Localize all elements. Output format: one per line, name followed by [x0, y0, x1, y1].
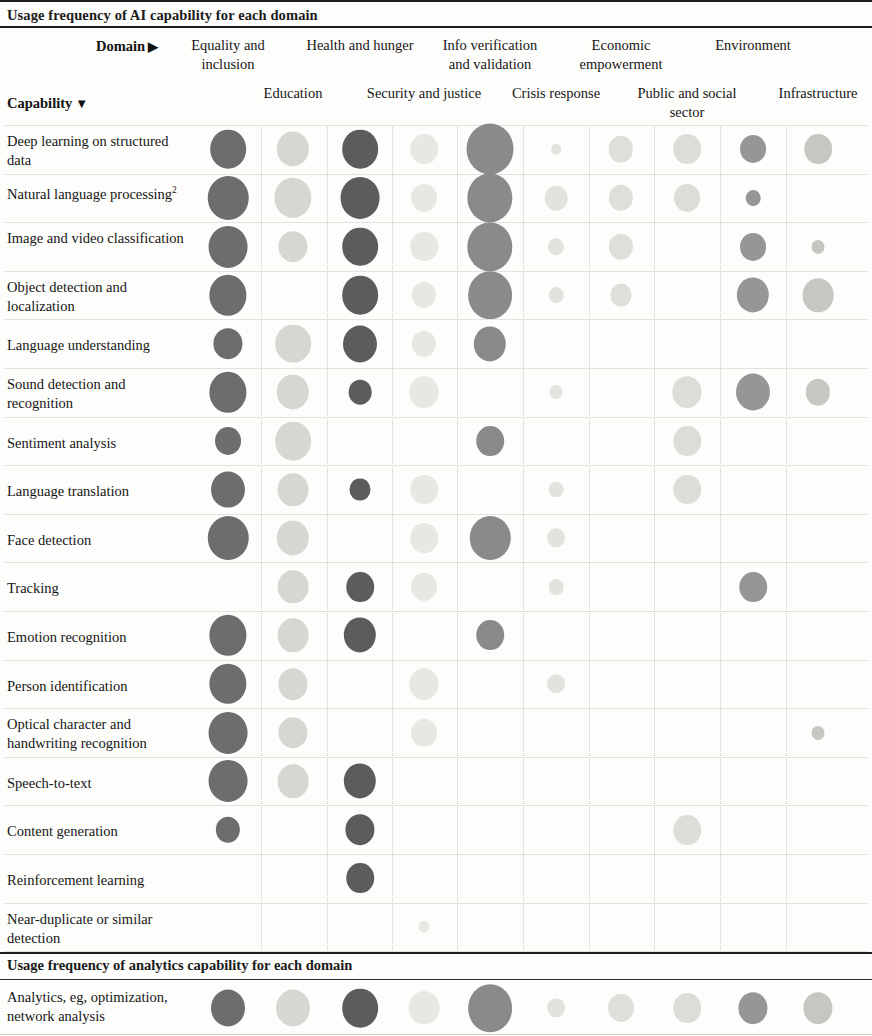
bubble-r14-c3	[344, 764, 376, 799]
bubble-r6-c2	[277, 375, 309, 410]
column-header-6: Crisis response	[497, 84, 615, 103]
row-separator	[4, 271, 868, 272]
bubble-r8-c8	[673, 475, 701, 505]
bubble-r9-c2	[277, 521, 309, 556]
footnote-marker: 2	[172, 185, 177, 195]
column-gridline-4	[457, 125, 458, 950]
bubble-r6-c8	[672, 376, 701, 408]
capability-arrow-icon: ▼	[75, 96, 88, 112]
bubble-r4-c6	[549, 287, 564, 303]
row-separator	[4, 125, 868, 126]
column-header-9: Environment	[694, 36, 812, 55]
bubble-r1-c8	[673, 134, 701, 164]
bubble-r11-c1	[209, 615, 246, 655]
bubble-r1-c2	[277, 132, 309, 167]
bubble-r2-c4	[411, 184, 437, 212]
row-separator	[4, 903, 868, 904]
bubble-r2-c1	[208, 176, 249, 220]
bubble-r8-c6	[549, 482, 564, 498]
row-label-6: Sound detection and recognition	[7, 375, 192, 413]
analytics-bubble-c10	[803, 992, 832, 1024]
bubble-r5-c4	[412, 330, 436, 356]
row-label-13: Optical character and handwriting recogn…	[7, 715, 192, 753]
analytics-row: Analytics, eg, optimization, network ana…	[0, 982, 872, 1033]
bubble-r6-c1	[209, 372, 246, 412]
bubble-r14-c2	[278, 764, 309, 797]
row-separator	[4, 514, 868, 515]
bubble-r9-c1	[208, 516, 249, 560]
bubble-r11-c3	[344, 618, 376, 653]
bubble-r1-c9	[740, 135, 766, 163]
column-header-3: Health and hunger	[301, 36, 419, 55]
analytics-bubble-c7	[608, 994, 634, 1022]
bubble-r17-c4	[418, 921, 429, 933]
row-separator	[4, 417, 868, 418]
bubble-r13-c4	[411, 718, 437, 746]
bubble-r5-c1	[213, 328, 242, 360]
bubble-r10-c2	[278, 570, 309, 603]
bubble-r15-c3	[345, 814, 374, 846]
row-separator	[4, 854, 868, 855]
bubble-r14-c1	[209, 760, 248, 802]
bubble-r6-c3	[349, 380, 372, 405]
chart-title-bar: Usage frequency of AI capability for eac…	[0, 0, 872, 28]
bubble-r6-c9	[736, 374, 770, 411]
column-gridline-1	[261, 125, 262, 950]
bubble-r6-c6	[550, 385, 563, 399]
row-label-2: Natural language processing2	[7, 181, 192, 204]
bubble-r3-c4	[410, 232, 438, 262]
bubble-r9-c4	[410, 523, 438, 553]
column-header-4: Security and justice	[365, 84, 483, 103]
bubble-r12-c4	[409, 668, 438, 700]
column-header-8: Public and social sector	[628, 84, 746, 122]
analytics-bottom-rule	[0, 1034, 872, 1035]
domain-arrow-icon: ▶	[148, 39, 158, 55]
column-header-5: Info verification and validation	[431, 36, 549, 74]
bubble-r1-c4	[410, 134, 438, 164]
bubble-r7-c8	[673, 426, 701, 456]
domain-axis-label: Domain▶	[96, 38, 158, 55]
row-separator	[4, 611, 868, 612]
analytics-bubble-c5	[468, 984, 512, 1032]
bubble-r9-c6	[547, 528, 565, 547]
bubble-r7-c1	[215, 427, 241, 455]
bubble-r11-c2	[278, 619, 309, 652]
bubble-r8-c4	[410, 475, 438, 505]
bubble-matrix: Deep learning on structured dataNatural …	[0, 125, 872, 950]
analytics-bubble-c6	[547, 998, 565, 1017]
column-gridline-5	[523, 125, 524, 950]
bubble-r6-c10	[806, 379, 830, 405]
bubble-r1-c1	[210, 130, 246, 169]
column-header-7: Economic empowerment	[562, 36, 680, 74]
column-gridline-6	[589, 125, 590, 950]
bubble-r12-c2	[278, 668, 307, 700]
bubble-r4-c9	[737, 278, 769, 313]
analytics-under-rule	[0, 979, 872, 980]
row-separator	[4, 465, 868, 466]
row-label-17: Near-duplicate or similar detection	[7, 910, 192, 948]
row-label-15: Content generation	[7, 822, 192, 841]
bubble-r8-c2	[278, 473, 309, 506]
page-title: Usage frequency of AI capability for eac…	[0, 7, 318, 24]
row-label-11: Emotion recognition	[7, 628, 192, 647]
bubble-r16-c3	[346, 863, 374, 893]
bubble-r10-c9	[739, 572, 767, 602]
column-gridline-8	[720, 125, 721, 950]
bubble-r4-c3	[342, 276, 378, 315]
bubble-r15-c8	[673, 815, 701, 845]
bubble-r10-c4	[411, 573, 437, 601]
bubble-r2-c8	[674, 184, 700, 212]
bubble-r8-c1	[211, 471, 245, 508]
row-label-5: Language understanding	[7, 336, 192, 355]
bubble-r4-c7	[610, 284, 631, 307]
bubble-r2-c5	[467, 173, 512, 222]
bubble-r7-c5	[476, 426, 504, 456]
row-label-4: Object detection and localization	[7, 278, 192, 316]
bubble-r6-c4	[409, 376, 438, 408]
bubble-r2-c9	[746, 190, 761, 206]
analytics-bubble-c8	[673, 993, 701, 1023]
bubble-r3-c6	[548, 238, 564, 256]
column-header-10: Infrastructure	[759, 84, 872, 103]
row-label-12: Person identification	[7, 677, 192, 696]
bubble-r2-c7	[609, 185, 633, 211]
